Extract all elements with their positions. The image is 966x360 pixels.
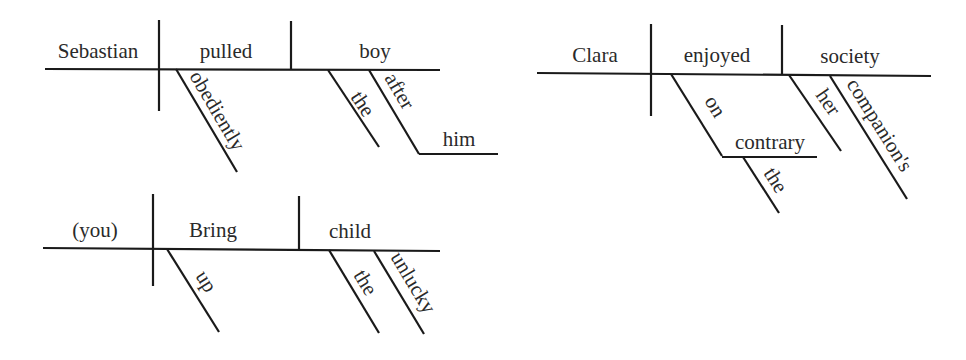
modifier-word-up: up bbox=[191, 266, 222, 297]
prepositional-object-word: contrary bbox=[735, 130, 805, 154]
modifier-word-the: the bbox=[759, 163, 793, 198]
modifier-word-the: the bbox=[349, 265, 383, 299]
sentence-diagrams-canvas: Sebastian pulled boy obediently the afte… bbox=[0, 0, 966, 360]
baseline bbox=[45, 69, 440, 70]
verb-word: Bring bbox=[189, 218, 237, 242]
object-word: society bbox=[820, 44, 880, 68]
subject-word: Clara bbox=[572, 43, 618, 67]
subject-word: Sebastian bbox=[58, 39, 139, 63]
preposition-word-after: after bbox=[380, 68, 420, 113]
baseline bbox=[43, 248, 440, 251]
modifier-word-companions: companion's bbox=[842, 74, 918, 176]
diagram-sebastian: Sebastian pulled boy obediently the afte… bbox=[45, 20, 498, 172]
preposition-word-on: on bbox=[700, 91, 732, 122]
object-word: child bbox=[329, 219, 371, 243]
verb-word: pulled bbox=[200, 39, 253, 63]
diagram-clara: Clara enjoyed society on contrary the he… bbox=[537, 24, 931, 213]
object-word: boy bbox=[359, 39, 391, 63]
modifier-word-the: the bbox=[346, 87, 380, 122]
baseline bbox=[537, 73, 931, 76]
modifier-word-obediently: obediently bbox=[185, 66, 251, 155]
verb-word: enjoyed bbox=[684, 43, 751, 67]
prepositional-object-word: him bbox=[443, 127, 476, 151]
diagram-bring: (you) Bring child up the unlucky bbox=[43, 194, 441, 334]
subject-word: (you) bbox=[72, 218, 118, 242]
